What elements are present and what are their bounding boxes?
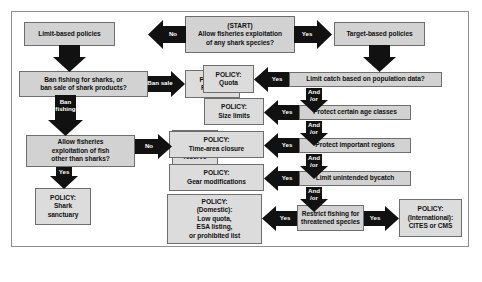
arrow-layer bbox=[0, 0, 482, 282]
flowchart-figure: Limit-based policies (START) Allow fishe… bbox=[0, 0, 482, 282]
